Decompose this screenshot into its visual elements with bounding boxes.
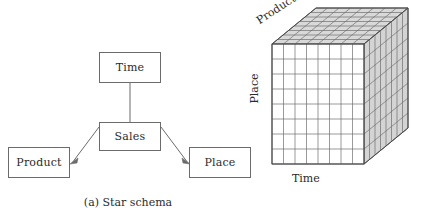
star-schema-links <box>0 0 256 221</box>
entity-box-sales: Sales <box>99 122 161 151</box>
panel-cube-metaphor: Place Time Product (b) Cube metaphor <box>248 0 433 221</box>
entity-box-time: Time <box>99 52 161 83</box>
arrowhead-product <box>70 158 78 164</box>
edge-sales-place <box>161 127 188 163</box>
cube-axis-label-time: Time <box>292 172 320 185</box>
entity-label-place: Place <box>204 156 235 169</box>
entity-label-product: Product <box>16 156 61 169</box>
edge-sales-product <box>72 127 99 163</box>
entity-box-product: Product <box>8 147 70 178</box>
figure-container: Time Sales Product Place (a) Star schema <box>0 0 433 221</box>
entity-label-sales: Sales <box>115 130 146 143</box>
entity-label-time: Time <box>116 61 145 74</box>
panel-star-schema: Time Sales Product Place (a) Star schema <box>0 0 256 221</box>
entity-box-place: Place <box>189 147 251 178</box>
cube-diagram <box>248 0 433 200</box>
